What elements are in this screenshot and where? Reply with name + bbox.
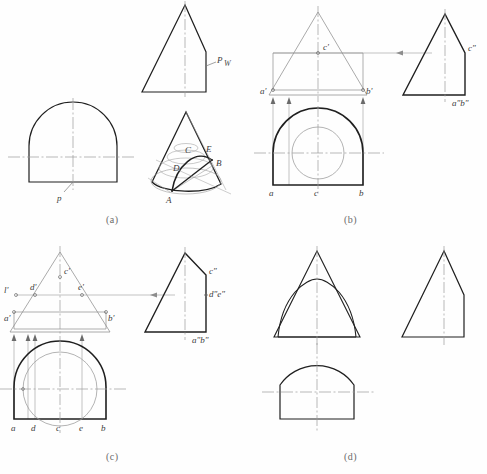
label-pw-subscript: W [224,59,232,68]
drawing-sheet: P W p [0,0,487,474]
panel-a-caption: (a) [106,214,119,225]
label-front-a: a' [4,313,12,323]
projector-arrow-b [361,97,366,104]
cone-front-outline [142,5,206,92]
projector-arrow-d [26,334,31,341]
label-front-l: l' [4,285,10,295]
label-point-a: A [165,195,172,205]
label-pw: P [216,55,223,65]
panel-b-caption: (b) [344,214,357,225]
panel-c-caption: (c) [106,451,119,462]
label-front-b: b' [108,313,116,323]
label-top-d: d [31,423,36,433]
panel-b: c' a' b' a c b [244,0,487,212]
projector-arrow-d2 [33,334,38,341]
panel-c-front-view: c' l' d' e' a' b' [4,246,175,341]
p-leader-line [64,182,73,192]
panel-b-side-view: c" a"b" [403,9,476,108]
label-top-e: e [79,423,83,433]
label-side-c: c" [209,266,217,276]
label-point-e: E [205,144,212,154]
panel-d-caption: (d) [344,451,357,462]
side-outline [402,251,464,337]
panel-a-pictorial-cone: A B C D E [148,112,231,205]
side-outline [145,253,206,332]
side-outline [403,14,465,95]
panel-d-top-view [262,343,374,433]
projector-arrow-e [80,334,85,341]
panel-c-side-view: c" d"e" a"b" [145,247,225,345]
panel-d: (d) [244,237,487,449]
panel-c: c' l' d' e' a' b' [0,237,244,449]
projector-arrow-a [271,97,276,104]
label-front-d: d' [30,282,38,292]
label-side-c: c" [468,43,476,53]
label-front-b: b' [366,86,374,96]
pictorial-helper-line-3 [148,178,170,192]
projector-arrow-a [12,334,17,341]
panel-d-front-view [274,246,360,345]
label-top-c: c [314,188,318,198]
label-top-a: a [269,188,274,198]
label-point-c: C [185,145,192,155]
label-p: p [56,193,62,203]
label-side-ab: a"b" [192,335,209,345]
label-point-d: D [172,163,180,173]
label-point-b: B [216,158,222,168]
label-front-a: a' [260,86,268,96]
label-front-c: c' [323,42,330,52]
panel-a: P W p [0,0,244,212]
panel-b-top-view: a c b [254,106,384,198]
label-side-de: d"e" [209,289,225,299]
label-top-c: c [56,423,60,433]
panel-a-top-view: p [8,98,135,203]
projector-arrow-mid [287,97,292,104]
label-side-ab: a"b" [452,98,469,108]
label-top-b: b [359,188,364,198]
label-top-a: a [11,423,16,433]
point-marker-a [171,190,173,192]
panel-c-top-view: a d c e b [0,340,128,433]
point-marker-b [211,159,213,161]
label-top-b: b [101,423,106,433]
panel-a-front-view: P W [142,1,232,97]
projection-arrow-head [396,50,403,55]
projection-arrow-head [150,292,157,297]
panel-d-side-view [402,246,464,345]
panel-c-projector-arrows [12,334,85,419]
pw-leader-line [206,62,216,66]
